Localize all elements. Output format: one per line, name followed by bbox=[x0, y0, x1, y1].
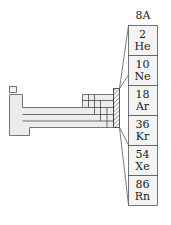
element-symbol: Ne bbox=[128, 71, 157, 83]
hydrogen-box bbox=[10, 87, 17, 93]
atomic-number: 86 bbox=[128, 176, 157, 191]
atomic-number: 10 bbox=[128, 56, 157, 71]
element-cell-neon: 10 Ne bbox=[128, 56, 157, 86]
element-symbol: Rn bbox=[128, 191, 157, 203]
element-cell-helium: 2 He bbox=[128, 26, 157, 56]
element-cell-xenon: 54 Xe bbox=[128, 146, 157, 176]
element-cell-argon: 18 Ar bbox=[128, 86, 157, 116]
atomic-number: 2 bbox=[128, 26, 157, 41]
element-symbol: He bbox=[128, 41, 157, 53]
noble-gas-column-hatched bbox=[114, 89, 120, 128]
group-label-8a: 8A bbox=[128, 9, 158, 23]
atomic-number: 18 bbox=[128, 86, 157, 101]
element-cell-krypton: 36 Kr bbox=[128, 116, 157, 146]
element-symbol: Ar bbox=[128, 101, 157, 113]
element-cell-radon: 86 Rn bbox=[128, 176, 157, 206]
atomic-number: 36 bbox=[128, 116, 157, 131]
element-symbol: Kr bbox=[128, 131, 157, 143]
element-symbol: Xe bbox=[128, 161, 157, 173]
atomic-number: 54 bbox=[128, 146, 157, 161]
